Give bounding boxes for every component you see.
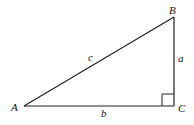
vertex-label-c: C [178, 102, 186, 114]
side-label-c: c [88, 51, 93, 63]
side-label-a: a [178, 52, 184, 64]
right-triangle-diagram: A B C a b c [0, 0, 194, 125]
side-label-b: b [101, 107, 107, 119]
vertex-label-a: A [10, 101, 18, 113]
right-angle-marker [162, 94, 174, 106]
side-c-hypotenuse [24, 17, 174, 106]
vertex-label-b: B [169, 4, 176, 16]
